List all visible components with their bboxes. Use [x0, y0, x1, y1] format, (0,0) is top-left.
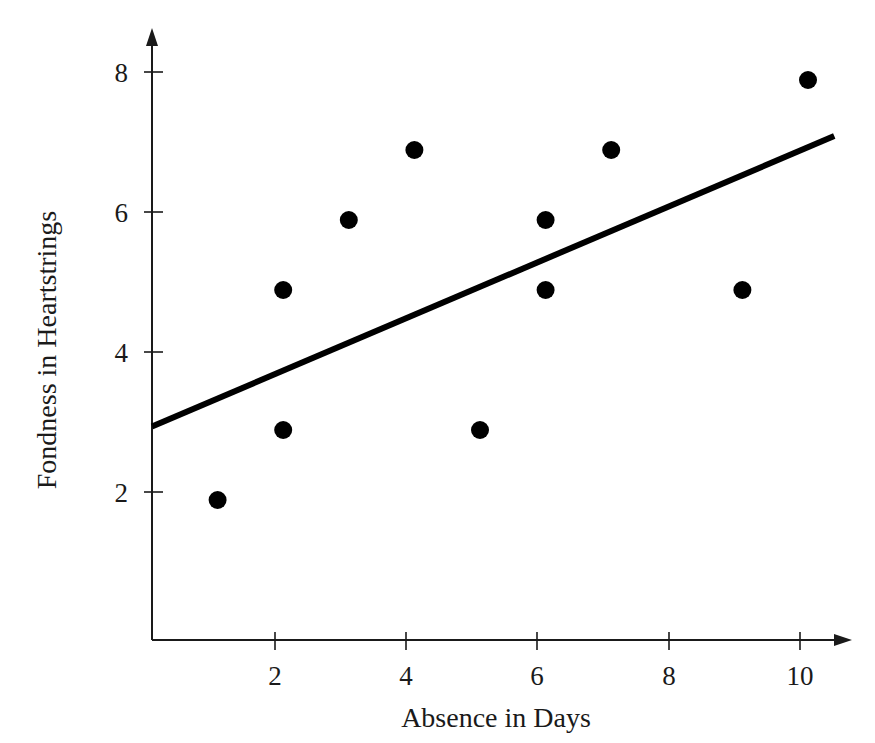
x-tick-label-10: 10 [787, 661, 814, 691]
x-axis-title: Absence in Days [401, 702, 591, 733]
data-point [471, 421, 489, 439]
x-tick-label-4: 4 [399, 661, 413, 691]
y-tick-label-2: 2 [115, 478, 129, 508]
y-tick-label-6: 6 [115, 198, 129, 228]
data-point [209, 491, 227, 509]
x-axis-arrow-icon [834, 634, 852, 646]
trend-line [152, 136, 834, 427]
y-axis-title: Fondness in Heartstrings [31, 211, 62, 489]
data-point [799, 71, 817, 89]
x-tick-label-8: 8 [662, 661, 676, 691]
x-tick-label-6: 6 [530, 661, 544, 691]
y-tick-label-8: 8 [115, 58, 129, 88]
data-point [733, 281, 751, 299]
plot-canvas: 8 6 4 2 2 4 6 8 10 Absence in Days Fondn… [0, 0, 875, 743]
data-point [537, 211, 555, 229]
data-point [274, 281, 292, 299]
y-tick-label-4: 4 [115, 338, 129, 368]
data-point [537, 281, 555, 299]
scatter-plot-figure: 8 6 4 2 2 4 6 8 10 Absence in Days Fondn… [0, 0, 875, 743]
data-point [405, 141, 423, 159]
data-point [340, 211, 358, 229]
data-point [602, 141, 620, 159]
data-points-group [209, 71, 817, 509]
y-axis-arrow-icon [146, 28, 158, 46]
x-tick-label-2: 2 [268, 661, 282, 691]
data-point [274, 421, 292, 439]
